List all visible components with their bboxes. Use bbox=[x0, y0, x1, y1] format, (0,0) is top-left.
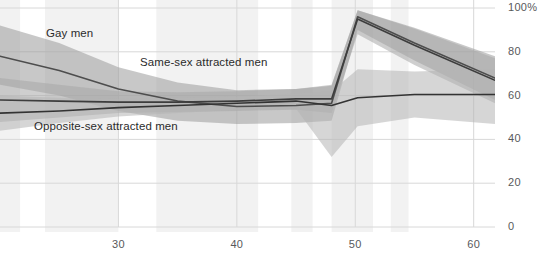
x-tick-label: 50 bbox=[335, 238, 375, 250]
y-tick-label: 80 bbox=[508, 45, 521, 57]
series-label-1: Gay men bbox=[46, 27, 93, 39]
y-tick-label: 0 bbox=[508, 220, 514, 232]
x-tick-label: 30 bbox=[98, 238, 138, 250]
x-tick-label: 60 bbox=[454, 238, 494, 250]
y-tick-label: 20 bbox=[508, 176, 521, 188]
x-tick-label: 40 bbox=[217, 238, 257, 250]
y-tick-label: 40 bbox=[508, 132, 521, 144]
y-tick-label: 60 bbox=[508, 89, 521, 101]
y-tick-label: 100% bbox=[508, 1, 537, 13]
series-label-3: Opposite-sex attracted men bbox=[34, 120, 178, 132]
series-label-2: Same-sex attracted men bbox=[140, 56, 267, 68]
chart-root: 020406080100% 30405060 Gay menSame-sex a… bbox=[0, 0, 547, 257]
